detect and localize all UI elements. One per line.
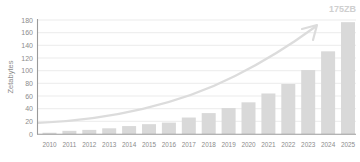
x-tick-label: 2014 — [122, 141, 137, 148]
y-tick-label: 160 — [21, 29, 33, 36]
x-tick-label: 2013 — [102, 141, 117, 148]
x-tick-label: 2011 — [63, 141, 77, 148]
y-axis-title: Zetabytes — [6, 60, 15, 93]
bar-2019[interactable] — [222, 108, 236, 134]
x-tick-label: 2017 — [182, 141, 197, 148]
y-tick-label: 140 — [21, 42, 33, 49]
x-tick-label: 2020 — [241, 141, 256, 148]
chart-container: 180 160 140 120 100 80 60 40 20 0 Zetaby… — [0, 0, 360, 162]
y-tick-label: 80 — [25, 80, 33, 87]
bar-2024[interactable] — [321, 51, 335, 134]
x-tick-label: 2025 — [341, 141, 356, 148]
y-tick-label: 40 — [25, 105, 33, 112]
x-tick-label: 2021 — [261, 141, 276, 148]
bar-2014[interactable] — [122, 126, 136, 134]
bar-2020[interactable] — [242, 102, 256, 134]
x-tick-label: 2023 — [301, 141, 316, 148]
bar-2012[interactable] — [82, 130, 96, 134]
x-tick-label: 2024 — [321, 141, 336, 148]
x-tick-label: 2022 — [281, 141, 296, 148]
bar-2018[interactable] — [202, 113, 216, 134]
y-axis-tick-labels: 180 160 140 120 100 80 60 40 20 0 — [21, 17, 33, 138]
bar-2025[interactable] — [341, 22, 355, 134]
y-tick-label: 100 — [21, 67, 33, 74]
x-tick-label: 2019 — [221, 141, 236, 148]
y-tick-label: 20 — [25, 118, 33, 125]
y-tick-label: 60 — [25, 93, 33, 100]
zettabyte-growth-bar-chart: 180 160 140 120 100 80 60 40 20 0 Zetaby… — [0, 0, 360, 162]
bar-2013[interactable] — [102, 128, 116, 134]
x-tick-label: 2012 — [82, 141, 97, 148]
bar-2017[interactable] — [182, 118, 196, 134]
bar-2023[interactable] — [301, 70, 315, 134]
y-tick-label: 180 — [21, 17, 33, 24]
bar-2011[interactable] — [62, 131, 76, 134]
x-tick-label: 2010 — [42, 141, 57, 148]
bar-2015[interactable] — [142, 124, 156, 134]
bar-2022[interactable] — [281, 84, 295, 134]
y-tick-label: 120 — [21, 55, 33, 62]
x-tick-label: 2015 — [142, 141, 157, 148]
y-tick-label: 0 — [29, 131, 33, 138]
final-value-callout: 175ZB — [329, 4, 357, 14]
bar-2021[interactable] — [261, 93, 275, 134]
x-axis-tick-labels: 2010 2011 2012 2013 2014 2015 2016 2017 … — [42, 141, 355, 148]
x-tick-label: 2018 — [202, 141, 217, 148]
bar-2016[interactable] — [162, 123, 176, 134]
bars-group — [43, 22, 356, 134]
x-tick-label: 2016 — [162, 141, 177, 148]
